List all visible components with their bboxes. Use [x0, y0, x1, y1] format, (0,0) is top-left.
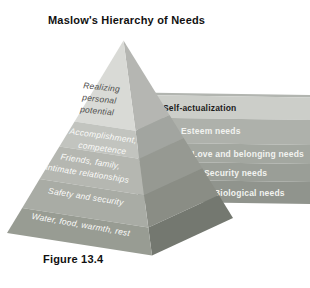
band-label-love-belonging: Love and belonging needs	[192, 149, 304, 159]
band-label-biological: Biological needs	[214, 188, 285, 198]
figure-title: Maslow's Hierarchy of Needs	[48, 14, 205, 26]
band-label-esteem: Esteem needs	[181, 126, 241, 136]
maslow-hierarchy-figure: Maslow's Hierarchy of Needs Self-actuali…	[0, 0, 310, 288]
pyramid-diagram: Maslow's Hierarchy of Needs Self-actuali…	[0, 0, 310, 288]
band-label-self-actualization: Self-actualization	[163, 103, 237, 113]
figure-caption: Figure 13.4	[43, 253, 104, 265]
band-label-security: Security needs	[204, 168, 267, 178]
